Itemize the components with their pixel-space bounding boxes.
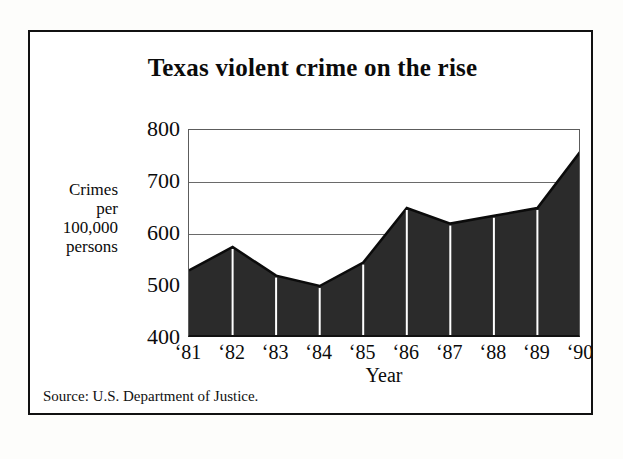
y-axis-label: Crimes per 100,000 persons (40, 180, 118, 256)
x-axis-tick-83: ‘83 (253, 340, 297, 364)
y-axis-label-line-3: 100,000 (40, 218, 118, 237)
y-axis-tick-labels: 800700600500400 (118, 129, 180, 337)
y-axis-tick-600: 600 (118, 222, 180, 244)
x-axis-tick-89: ‘89 (514, 340, 558, 364)
scanned-page: Texas violent crime on the rise Crimes p… (0, 0, 623, 459)
y-axis-label-line-2: per (40, 199, 118, 218)
y-axis-tick-700: 700 (118, 170, 180, 192)
x-axis-tick-85: ‘85 (340, 340, 384, 364)
x-axis-tick-88: ‘88 (471, 340, 515, 364)
figure-frame: Texas violent crime on the rise Crimes p… (28, 30, 593, 415)
x-axis-tick-87: ‘87 (427, 340, 471, 364)
y-axis-tick-800: 800 (118, 118, 180, 140)
area-fill (189, 151, 580, 337)
area-series (189, 130, 580, 337)
y-axis-tick-500: 500 (118, 274, 180, 296)
x-axis-tick-82: ‘82 (210, 340, 254, 364)
x-axis-tick-81: ‘81 (166, 340, 210, 364)
y-axis-label-line-1: Crimes (40, 180, 118, 199)
x-axis-tick-84: ‘84 (297, 340, 341, 364)
x-axis-tick-90: ‘90 (558, 340, 602, 364)
x-axis-tick-86: ‘86 (384, 340, 428, 364)
plot-frame (188, 129, 580, 337)
plot-area (188, 129, 580, 337)
x-axis-tick-labels: ‘81‘82‘83‘84‘85‘86‘87‘88‘89‘90 (188, 340, 580, 366)
x-axis-title: Year (188, 364, 580, 387)
y-axis-label-line-4: persons (40, 237, 118, 256)
source-note: Source: U.S. Department of Justice. (43, 388, 258, 405)
page-title: Texas violent crime on the rise (30, 54, 595, 82)
